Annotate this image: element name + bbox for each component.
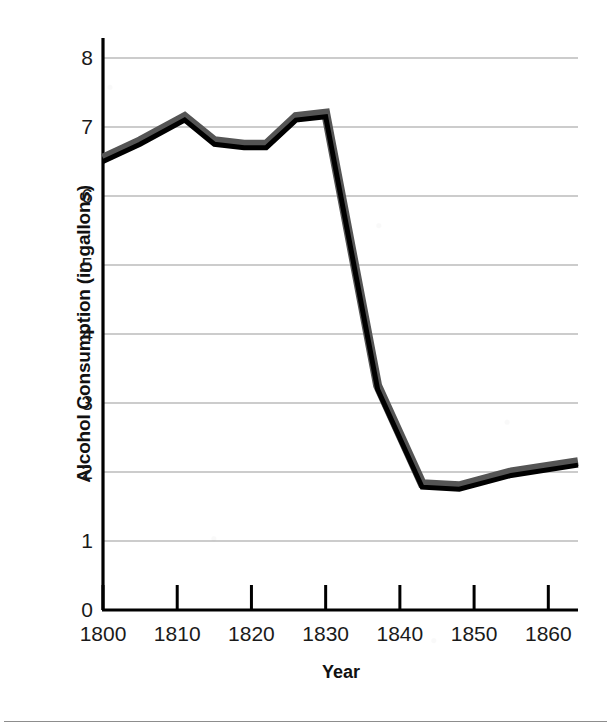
x-axis-title: Year xyxy=(103,662,579,683)
x-tick-label-1860: 1860 xyxy=(503,622,593,646)
page-bottom-rule xyxy=(4,721,607,722)
data-series-line xyxy=(103,113,578,489)
plot-area xyxy=(0,0,611,728)
x-axis-tick-labels: 1800181018201830184018501860 xyxy=(0,622,611,652)
data-line-shadow xyxy=(103,113,578,486)
alcohol-consumption-line-chart: Alcohol Consumption (in gallons) 0123456… xyxy=(0,0,611,728)
x-axis-tick-marks xyxy=(103,585,548,610)
